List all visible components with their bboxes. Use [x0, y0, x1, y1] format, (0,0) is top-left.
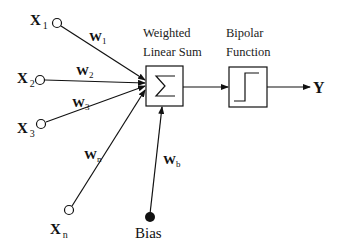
input-node-x1 [53, 19, 62, 28]
edge-bias [150, 107, 162, 214]
activation-block-title-line2: Function [226, 46, 270, 59]
edge-x3 [46, 86, 145, 122]
weight-label-wn: Wn [84, 148, 102, 164]
input-label-x1: X1 [30, 13, 48, 31]
weight-label-wb: Wb [163, 153, 181, 169]
bias-label: Bias [135, 226, 162, 241]
weight-label-w2: W2 [76, 64, 94, 80]
input-label-xn: Xn [50, 222, 68, 240]
weight-label-w1: W1 [89, 30, 107, 46]
activation-block-title-line1: Bipolar [226, 27, 264, 40]
sum-block-title-line1: Weighted [143, 27, 191, 40]
input-label-x2: X2 [17, 71, 35, 89]
input-node-x3 [37, 120, 46, 129]
sum-block-title-line2: Linear Sum [143, 46, 202, 59]
edge-x2 [45, 80, 145, 83]
input-label-x3: X3 [17, 121, 35, 139]
input-node-xn [65, 206, 74, 215]
bias-node [145, 212, 155, 222]
input-node-x2 [36, 76, 45, 85]
weight-label-w3: W3 [72, 96, 90, 112]
output-label-y: Y [313, 80, 325, 96]
